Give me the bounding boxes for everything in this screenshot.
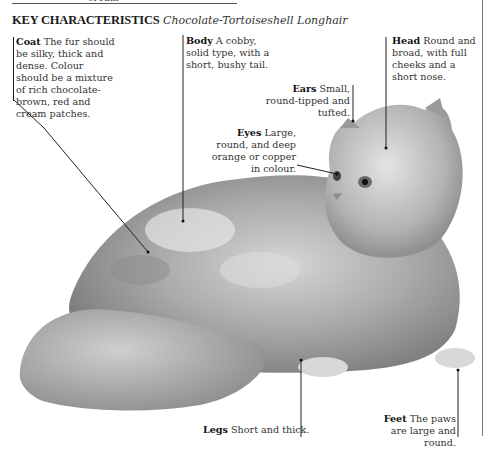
annotation-body: Body A cobby, solid type, with a short, … xyxy=(186,35,281,71)
annotation-term: Head xyxy=(392,35,420,46)
annotation-feet: Feet The paws are large and round. xyxy=(370,413,456,449)
annotation-term: Coat xyxy=(16,36,41,47)
annotation-eyes: Eyes Large, round, and deep orange or co… xyxy=(204,127,296,175)
annotation-term: Eyes xyxy=(237,127,261,138)
annotation-text: The fur should be silky, thick and dense… xyxy=(16,36,115,119)
annotation-term: Legs xyxy=(203,424,228,435)
annotation-text: Short and thick. xyxy=(231,424,309,435)
annotation-coat: Coat The fur should be silky, thick and … xyxy=(16,36,116,120)
annotation-term: Feet xyxy=(384,413,407,424)
annotation-term: Body xyxy=(186,35,213,46)
annotation-ears: Ears Small, round-tipped and tufted. xyxy=(262,83,350,119)
leader-line xyxy=(13,37,14,101)
annotation-head: Head Round and broad, with full cheeks a… xyxy=(392,35,482,83)
annotation-legs: Legs Short and thick. xyxy=(203,424,300,436)
annotation-term: Ears xyxy=(292,83,316,94)
